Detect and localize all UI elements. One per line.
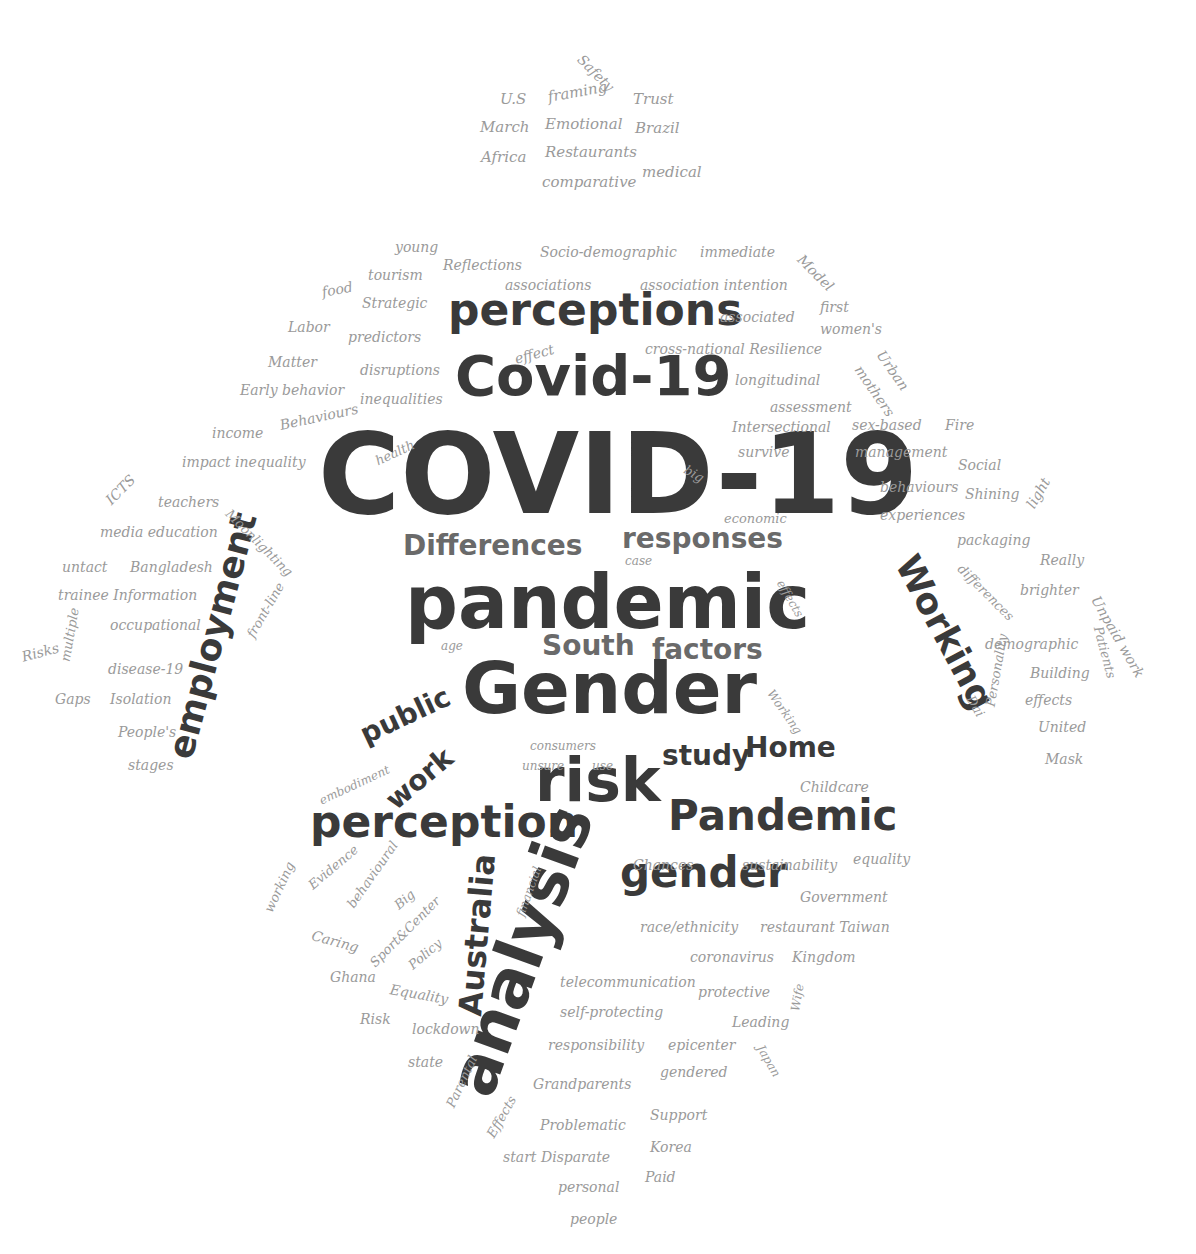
cloud-word: Gaps	[55, 692, 91, 706]
cloud-word: Pandemic	[668, 795, 898, 837]
cloud-word: Evidence	[306, 843, 361, 892]
cloud-word: trainee Information	[58, 588, 197, 602]
cloud-word: protective	[698, 985, 770, 999]
cloud-word: Matter	[268, 355, 317, 369]
cloud-word: comparative	[542, 175, 637, 190]
cloud-word: equality	[853, 852, 910, 866]
cloud-word: Fire	[945, 418, 974, 432]
cloud-word: state	[408, 1055, 443, 1069]
cloud-word: sustainability	[742, 858, 837, 872]
cloud-word: Leading	[732, 1015, 789, 1029]
cloud-word: March	[480, 120, 530, 135]
cloud-word: economic	[724, 512, 787, 525]
cloud-word: start Disparate	[503, 1150, 610, 1164]
cloud-word: South	[542, 632, 635, 660]
cloud-word: study	[662, 742, 750, 770]
cloud-word: Mask	[1045, 752, 1083, 766]
cloud-word: Paid	[645, 1170, 676, 1184]
cloud-word: food	[321, 280, 354, 299]
word-cloud: COVID-19pandemicGenderCovid-19perception…	[0, 0, 1196, 1254]
cloud-word: Risks	[20, 640, 60, 663]
cloud-word: Really	[1040, 553, 1084, 567]
cloud-word: brighter	[1020, 583, 1079, 597]
cloud-word: women's	[820, 322, 882, 336]
cloud-word: Social	[958, 458, 1001, 472]
cloud-word: Korea	[650, 1140, 692, 1154]
cloud-word: immediate	[700, 245, 775, 259]
cloud-word: longitudinal	[735, 373, 820, 387]
cloud-word: Trust	[633, 92, 674, 107]
cloud-word: working	[262, 860, 297, 914]
cloud-word: Government	[800, 890, 888, 904]
cloud-word: ICTS	[103, 472, 138, 507]
cloud-word: Japan	[755, 1043, 783, 1079]
cloud-word: Childcare	[800, 780, 869, 794]
cloud-word: media education	[100, 525, 218, 539]
cloud-word: association intention	[640, 278, 788, 292]
cloud-word: Reflections	[443, 258, 522, 272]
cloud-word: medical	[642, 165, 702, 180]
cloud-word: Early behavior	[240, 383, 344, 397]
cloud-word: Effects	[484, 1094, 518, 1140]
cloud-word: sex-based	[852, 418, 922, 432]
cloud-word: restaurant Taiwan	[760, 920, 890, 934]
cloud-word: multiple	[59, 607, 81, 663]
cloud-word: race/ethnicity	[640, 920, 738, 934]
cloud-word: Working	[889, 550, 1000, 716]
cloud-word: Problematic	[540, 1118, 626, 1132]
cloud-word: People's	[118, 725, 176, 739]
cloud-word: Africa	[481, 150, 526, 165]
cloud-word: Chances	[633, 858, 693, 872]
cloud-word: Restaurants	[545, 145, 637, 160]
cloud-word: Isolation	[110, 692, 172, 706]
cloud-word: tourism	[368, 268, 423, 282]
cloud-word: Ghana	[330, 970, 376, 984]
cloud-word: young	[395, 240, 438, 254]
cloud-word: pandemic	[405, 565, 810, 639]
cloud-word: Big	[392, 887, 417, 911]
cloud-word: differences	[955, 562, 1016, 623]
cloud-word: cross-national Resilience	[645, 342, 822, 356]
cloud-word: Wife	[789, 983, 806, 1012]
cloud-word: Policy	[406, 936, 444, 971]
cloud-word: self-protecting	[560, 1005, 663, 1019]
cloud-word: Labor	[288, 320, 330, 334]
cloud-word: teachers	[158, 495, 219, 509]
cloud-word: Brazil	[635, 121, 680, 136]
cloud-word: Strategic	[362, 296, 427, 310]
cloud-word: untact	[62, 560, 107, 574]
cloud-word: Shining	[965, 487, 1020, 501]
cloud-word: perceptions	[448, 288, 742, 332]
cloud-word: Risk	[360, 1012, 391, 1026]
cloud-word: Equality	[389, 982, 450, 1006]
cloud-word: United	[1038, 720, 1086, 734]
cloud-word: age	[441, 640, 463, 652]
cloud-word: consumers	[530, 740, 596, 752]
cloud-word: Home	[745, 734, 836, 762]
cloud-word: telecommunication	[560, 975, 696, 989]
cloud-word: factors	[652, 636, 763, 664]
cloud-word: case	[625, 555, 652, 567]
cloud-word: occupational	[110, 618, 201, 632]
cloud-word: first	[820, 300, 849, 314]
cloud-word: people	[570, 1212, 617, 1226]
cloud-word: coronavirus	[690, 950, 774, 964]
cloud-word: U.S	[500, 92, 526, 107]
cloud-word: gendered	[660, 1065, 727, 1079]
cloud-word: light	[1024, 475, 1052, 510]
cloud-word: survive	[738, 445, 789, 459]
cloud-word: stages	[128, 758, 174, 772]
cloud-word: Emotional	[545, 117, 622, 132]
cloud-word: packaging	[957, 533, 1030, 547]
cloud-word: disruptions	[360, 363, 440, 377]
cloud-word: Kingdom	[792, 950, 856, 964]
cloud-word: income	[212, 426, 263, 440]
cloud-word: lockdown	[412, 1022, 480, 1036]
cloud-word: unsure	[522, 760, 564, 772]
cloud-word: Bangladesh	[130, 560, 213, 574]
cloud-word: disease-19	[108, 662, 183, 676]
cloud-word: responses	[622, 525, 783, 553]
cloud-word: personal	[558, 1180, 619, 1194]
cloud-word: Socio-demographic	[540, 245, 677, 259]
cloud-word: management	[855, 445, 947, 459]
